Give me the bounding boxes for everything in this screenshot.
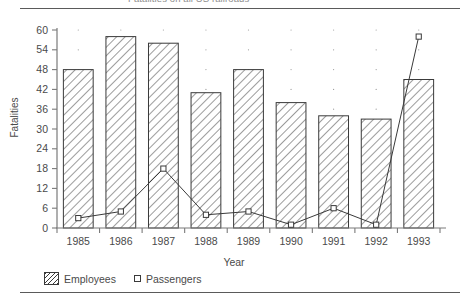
x-tick-1987: 1987 — [152, 235, 176, 247]
y-tick-18: 18 — [36, 162, 48, 174]
y-tick-6: 6 — [42, 202, 48, 214]
x-tick-1989: 1989 — [237, 235, 261, 247]
legend-label-employees: Employees — [64, 273, 116, 285]
marker-1990 — [288, 222, 293, 227]
bar-1985 — [63, 70, 93, 228]
x-tick-1985: 1985 — [67, 235, 91, 247]
y-tick-labels: 06121824303642485460 — [36, 24, 48, 234]
y-tick-0: 0 — [42, 222, 48, 234]
x-tick-1988: 1988 — [194, 235, 218, 247]
x-tick-1992: 1992 — [364, 235, 388, 247]
x-tick-labels: 198519861987198819891990199119921993 — [67, 235, 431, 247]
bar-1988 — [191, 93, 221, 228]
marker-1988 — [203, 212, 208, 217]
x-tick-1986: 1986 — [109, 235, 133, 247]
y-tick-54: 54 — [36, 43, 48, 55]
bar-1993 — [404, 80, 434, 229]
open-square-swatch-icon — [134, 275, 141, 282]
x-tick-1993: 1993 — [407, 235, 431, 247]
y-tick-60: 60 — [36, 24, 48, 36]
marker-1987 — [161, 166, 166, 171]
x-axis-label: Year — [0, 256, 468, 268]
bar-1992 — [361, 119, 391, 228]
marker-1992 — [374, 222, 379, 227]
x-tick-1991: 1991 — [322, 235, 346, 247]
y-tick-36: 36 — [36, 103, 48, 115]
bar-series-employees — [63, 37, 433, 228]
bar-1986 — [106, 37, 136, 228]
marker-1993 — [416, 34, 421, 39]
legend-entry-passengers: Passengers — [134, 273, 201, 285]
bottom-rule — [20, 292, 460, 293]
marker-1986 — [118, 209, 123, 214]
chart-legend: Employees Passengers — [44, 272, 201, 285]
legend-label-passengers: Passengers — [146, 273, 201, 285]
y-tick-30: 30 — [36, 123, 48, 135]
hatched-bar-swatch-icon — [44, 272, 59, 285]
marker-1985 — [76, 216, 81, 221]
x-tick-1990: 1990 — [279, 235, 303, 247]
marker-1991 — [331, 206, 336, 211]
bar-1990 — [276, 103, 306, 228]
y-tick-12: 12 — [36, 182, 48, 194]
marker-1989 — [246, 209, 251, 214]
bar-1989 — [234, 70, 264, 228]
y-tick-48: 48 — [36, 63, 48, 75]
bar-1987 — [148, 43, 178, 228]
y-tick-42: 42 — [36, 83, 48, 95]
y-tick-24: 24 — [36, 142, 48, 154]
chart-figure: Fatalities on all US railroads Fatalitie… — [0, 0, 468, 304]
legend-entry-employees: Employees — [44, 272, 116, 285]
